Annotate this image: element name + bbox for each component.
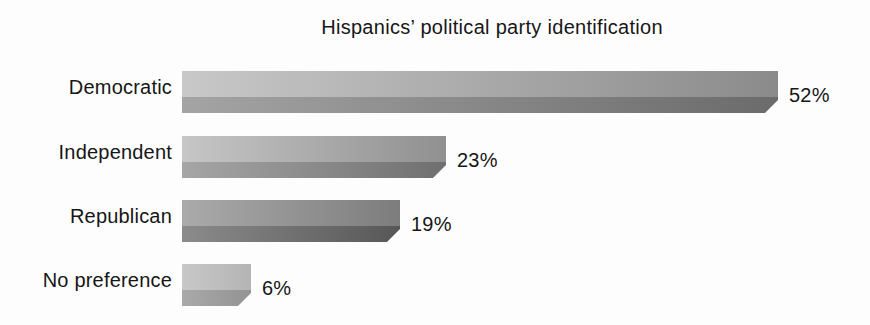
bar-row-republican: Republican 19% <box>0 200 452 242</box>
bar-top-band <box>182 71 778 97</box>
bar-bottom-band <box>182 162 446 178</box>
category-label-democratic: Democratic <box>0 76 172 99</box>
value-label-democratic: 52% <box>789 84 830 107</box>
category-label-independent: Independent <box>0 141 172 164</box>
bar-chart: Hispanics’ political party identificatio… <box>0 0 870 325</box>
bar-democratic <box>182 71 778 113</box>
bar-top-band <box>182 136 446 162</box>
category-label-republican: Republican <box>0 205 172 228</box>
bar-row-no-preference: No preference 6% <box>0 264 291 306</box>
category-label-no-preference: No preference <box>0 269 172 292</box>
bar-independent <box>182 136 446 178</box>
bar-no-preference <box>182 264 251 306</box>
bar-row-democratic: Democratic 52% <box>0 71 830 113</box>
bar-republican <box>182 200 400 242</box>
bar-bottom-band <box>182 226 400 242</box>
value-label-independent: 23% <box>457 149 498 172</box>
value-label-republican: 19% <box>411 213 452 236</box>
bar-bottom-band <box>182 97 778 113</box>
bar-row-independent: Independent 23% <box>0 136 498 178</box>
bar-bottom-band <box>182 290 251 306</box>
chart-title: Hispanics’ political party identificatio… <box>321 16 663 39</box>
value-label-no-preference: 6% <box>262 277 291 300</box>
bar-top-band <box>182 264 251 290</box>
bar-top-band <box>182 200 400 226</box>
